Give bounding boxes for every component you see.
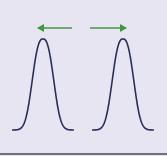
- diagram-canvas: [0, 0, 167, 153]
- right-curve: [92, 39, 154, 130]
- left-curve: [12, 39, 74, 130]
- diagram-panel: [0, 0, 167, 155]
